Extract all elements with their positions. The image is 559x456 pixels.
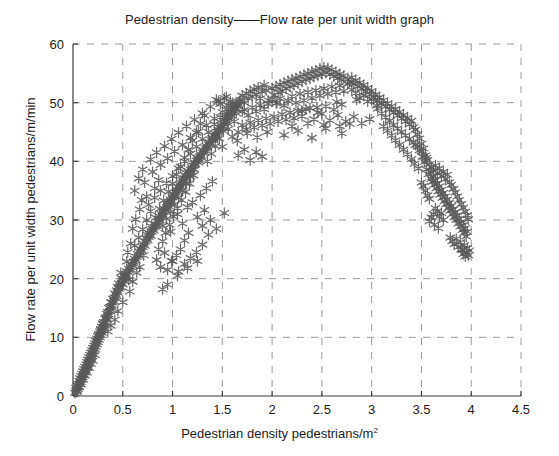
svg-text:4: 4: [468, 402, 475, 417]
y-tick-labels: 0102030405060: [50, 37, 64, 404]
scatter-plot-canvas: 00.511.522.533.544.5 0102030405060: [0, 0, 559, 456]
y-axis-label: Flow rate per unit width pedestrians/m/m…: [23, 40, 38, 400]
x-axis-label: Pedestrian density pedestrians/m2: [0, 426, 559, 441]
chart-figure: Pedestrian density——Flow rate per unit w…: [0, 0, 559, 456]
svg-text:2: 2: [268, 402, 275, 417]
x-tick-labels: 00.511.522.533.544.5: [69, 402, 530, 417]
svg-text:1.5: 1.5: [213, 402, 231, 417]
svg-text:0: 0: [69, 402, 76, 417]
svg-text:30: 30: [50, 213, 64, 228]
svg-text:4.5: 4.5: [512, 402, 530, 417]
svg-text:40: 40: [50, 154, 64, 169]
svg-text:50: 50: [50, 96, 64, 111]
x-axis-label-superscript: 2: [373, 426, 377, 435]
svg-text:2.5: 2.5: [313, 402, 331, 417]
svg-text:10: 10: [50, 330, 64, 345]
svg-text:3.5: 3.5: [412, 402, 430, 417]
svg-text:0: 0: [57, 389, 64, 404]
x-axis-label-text: Pedestrian density pedestrians/m: [181, 426, 373, 441]
svg-text:60: 60: [50, 37, 64, 52]
svg-text:1: 1: [169, 402, 176, 417]
svg-text:3: 3: [368, 402, 375, 417]
svg-text:0.5: 0.5: [114, 402, 132, 417]
svg-text:20: 20: [50, 272, 64, 287]
